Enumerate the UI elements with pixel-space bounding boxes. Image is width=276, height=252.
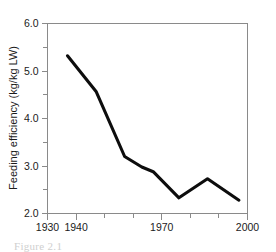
x-tick-label: 2000 <box>236 221 260 233</box>
figure-caption-partial: Figure 2.1 <box>14 240 62 252</box>
x-tick-label: 1940 <box>64 221 88 233</box>
x-tick-label: 1970 <box>150 221 174 233</box>
y-tick-label: 2.0 <box>24 207 39 219</box>
y-axis-title: Feeding efficiency (kg/kg LW) <box>7 46 19 190</box>
x-tick-label: 1930 <box>36 221 60 233</box>
y-tick-label: 3.0 <box>24 160 39 172</box>
y-tick-label: 4.0 <box>24 112 39 124</box>
y-tick-label: 5.0 <box>24 65 39 77</box>
y-tick-label: 6.0 <box>24 17 39 29</box>
